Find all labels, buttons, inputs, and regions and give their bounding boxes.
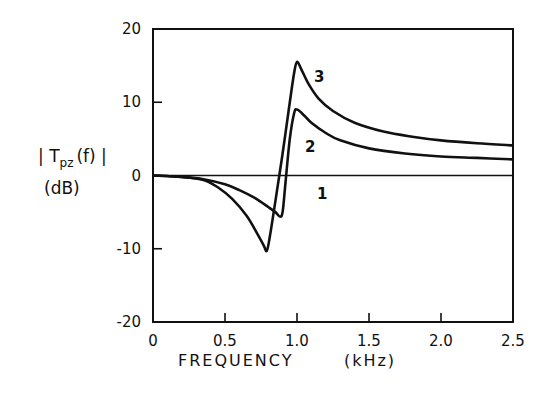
y-tick-label: 10 [122,93,141,111]
x-axis-unit: (kHz) [344,351,396,370]
curves [153,62,513,251]
curve-label-1: 1 [317,185,327,203]
y-tick-label: 0 [131,167,141,185]
y-tick-label: -20 [117,313,142,331]
x-tick-label: 0 [148,332,158,350]
curve-label-2: 2 [305,138,315,156]
x-axis-label: FREQUENCY [178,351,293,370]
x-tick-label: 2.5 [501,332,525,350]
y-tick-label: -10 [117,240,142,258]
x-tick-label: 1.0 [285,332,309,350]
frequency-response-chart: 00.51.01.52.02.5-20-1001020 | Tpz(f) | (… [0,0,550,395]
x-tick-label: 1.5 [357,332,381,350]
y-tick-label: 20 [122,20,141,38]
curve-2 [153,109,513,216]
x-tick-label: 2.0 [429,332,453,350]
y-axis-label: | Tpz(f) | [38,146,107,170]
x-tick-label: 0.5 [213,332,237,350]
y-axis-unit: (dB) [44,178,80,198]
curve-label-3: 3 [314,68,324,86]
